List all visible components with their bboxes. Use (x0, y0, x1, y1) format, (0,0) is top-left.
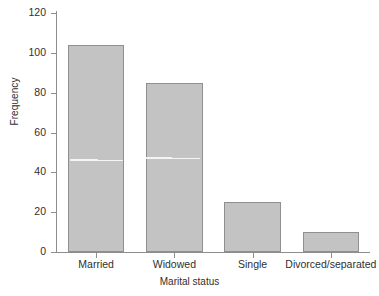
bar (146, 83, 202, 252)
x-tick-label: Single (238, 258, 267, 270)
y-tick-label: 20 (6, 205, 46, 217)
bar (68, 45, 124, 252)
x-tick-label: Widowed (153, 258, 196, 270)
bar (303, 232, 359, 252)
y-tick-mark (51, 53, 57, 54)
x-tick-label: Married (78, 258, 114, 270)
y-tick-label: 0 (6, 245, 46, 257)
y-tick-label: 100 (6, 46, 46, 58)
bar-chart: Frequency 020406080100120 MarriedWidowed… (0, 0, 379, 296)
y-tick-label: 40 (6, 165, 46, 177)
x-axis-title: Marital status (0, 276, 379, 287)
y-tick-label: 80 (6, 86, 46, 98)
bar (224, 202, 280, 252)
x-tick-label: Divorced/separated (285, 258, 376, 270)
y-tick-mark (51, 133, 57, 134)
x-axis-line (56, 252, 370, 253)
y-tick-mark (51, 212, 57, 213)
y-tick-label: 60 (6, 126, 46, 138)
y-tick-mark (51, 172, 57, 173)
y-tick-mark (51, 93, 57, 94)
y-tick-mark (51, 13, 57, 14)
y-tick-label: 120 (6, 6, 46, 18)
